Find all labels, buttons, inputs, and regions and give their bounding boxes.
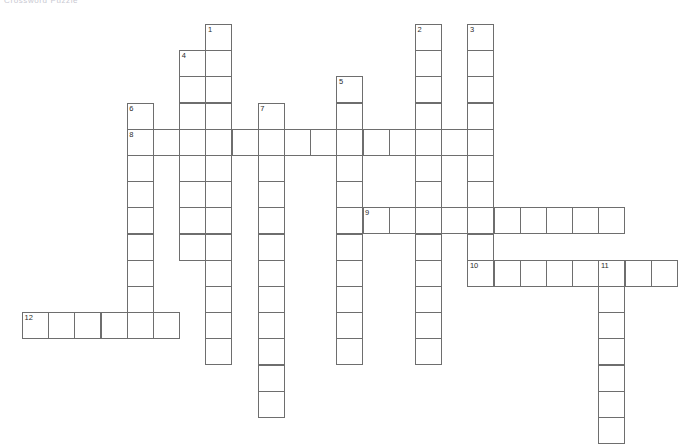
crossword-cell[interactable] [467, 207, 494, 234]
crossword-cell[interactable] [48, 312, 75, 339]
crossword-cell[interactable] [336, 103, 363, 130]
crossword-cell[interactable] [598, 365, 625, 392]
crossword-cell[interactable] [127, 260, 154, 287]
crossword-cell[interactable] [520, 260, 547, 287]
crossword-cell[interactable]: 8 [127, 129, 154, 156]
crossword-cell[interactable] [441, 207, 468, 234]
crossword-cell[interactable] [179, 207, 206, 234]
crossword-cell[interactable] [336, 260, 363, 287]
crossword-cell[interactable] [258, 312, 285, 339]
crossword-cell[interactable] [153, 129, 180, 156]
crossword-cell[interactable] [205, 338, 232, 365]
crossword-cell[interactable] [127, 207, 154, 234]
crossword-cell[interactable]: 2 [415, 24, 442, 51]
crossword-cell[interactable] [389, 207, 416, 234]
crossword-cell[interactable] [467, 76, 494, 103]
crossword-cell[interactable] [415, 207, 442, 234]
crossword-cell[interactable] [232, 129, 259, 156]
crossword-cell[interactable] [467, 129, 494, 156]
crossword-cell[interactable] [467, 234, 494, 261]
crossword-cell[interactable] [336, 286, 363, 313]
crossword-cell[interactable] [494, 260, 521, 287]
crossword-cell[interactable] [127, 234, 154, 261]
crossword-cell[interactable] [205, 103, 232, 130]
crossword-cell[interactable] [127, 286, 154, 313]
crossword-cell[interactable] [415, 155, 442, 182]
crossword-cell[interactable] [415, 234, 442, 261]
crossword-cell[interactable]: 3 [467, 24, 494, 51]
crossword-cell[interactable] [336, 234, 363, 261]
crossword-cell[interactable] [598, 312, 625, 339]
crossword-cell[interactable]: 12 [22, 312, 49, 339]
crossword-cell[interactable] [258, 155, 285, 182]
crossword-cell[interactable] [336, 181, 363, 208]
crossword-cell[interactable] [258, 207, 285, 234]
crossword-cell[interactable] [258, 286, 285, 313]
crossword-cell[interactable] [598, 338, 625, 365]
crossword-cell[interactable] [389, 129, 416, 156]
crossword-cell[interactable] [205, 76, 232, 103]
crossword-cell[interactable] [467, 103, 494, 130]
crossword-cell[interactable] [258, 181, 285, 208]
crossword-cell[interactable] [336, 129, 363, 156]
crossword-cell[interactable] [572, 207, 599, 234]
crossword-cell[interactable] [598, 286, 625, 313]
crossword-cell[interactable] [546, 207, 573, 234]
crossword-cell[interactable] [179, 76, 206, 103]
crossword-cell[interactable] [205, 260, 232, 287]
crossword-cell[interactable] [205, 234, 232, 261]
crossword-cell[interactable] [572, 260, 599, 287]
crossword-cell[interactable] [363, 129, 390, 156]
crossword-cell[interactable] [415, 338, 442, 365]
crossword-cell[interactable] [205, 50, 232, 77]
crossword-cell[interactable] [127, 155, 154, 182]
crossword-cell[interactable] [441, 129, 468, 156]
crossword-cell[interactable] [415, 260, 442, 287]
crossword-cell[interactable] [467, 155, 494, 182]
crossword-cell[interactable] [415, 103, 442, 130]
crossword-cell[interactable]: 7 [258, 103, 285, 130]
crossword-cell[interactable] [336, 155, 363, 182]
crossword-cell[interactable] [127, 181, 154, 208]
crossword-cell[interactable] [284, 129, 311, 156]
crossword-cell[interactable] [258, 129, 285, 156]
crossword-cell[interactable] [205, 312, 232, 339]
crossword-cell[interactable] [179, 129, 206, 156]
crossword-cell[interactable] [520, 207, 547, 234]
crossword-cell[interactable] [258, 391, 285, 418]
crossword-cell[interactable] [336, 338, 363, 365]
crossword-cell[interactable] [415, 129, 442, 156]
crossword-cell[interactable]: 1 [205, 24, 232, 51]
crossword-cell[interactable] [651, 260, 678, 287]
crossword-cell[interactable] [258, 338, 285, 365]
crossword-cell[interactable] [415, 76, 442, 103]
crossword-cell[interactable] [258, 260, 285, 287]
crossword-cell[interactable] [336, 312, 363, 339]
crossword-cell[interactable] [74, 312, 101, 339]
crossword-cell[interactable] [467, 50, 494, 77]
crossword-cell[interactable] [179, 181, 206, 208]
crossword-cell[interactable]: 10 [467, 260, 494, 287]
crossword-cell[interactable] [258, 365, 285, 392]
crossword-cell[interactable] [310, 129, 337, 156]
crossword-cell[interactable] [205, 286, 232, 313]
crossword-cell[interactable] [598, 417, 625, 444]
crossword-cell[interactable]: 9 [363, 207, 390, 234]
crossword-cell[interactable] [415, 50, 442, 77]
crossword-cell[interactable] [205, 207, 232, 234]
crossword-cell[interactable] [415, 312, 442, 339]
crossword-cell[interactable] [101, 312, 128, 339]
crossword-cell[interactable] [179, 155, 206, 182]
crossword-cell[interactable] [336, 207, 363, 234]
crossword-cell[interactable]: 5 [336, 76, 363, 103]
crossword-cell[interactable] [258, 234, 285, 261]
crossword-cell[interactable] [494, 207, 521, 234]
crossword-cell[interactable] [127, 312, 154, 339]
crossword-cell[interactable] [546, 260, 573, 287]
crossword-cell[interactable] [205, 181, 232, 208]
crossword-cell[interactable] [205, 155, 232, 182]
crossword-cell[interactable]: 11 [598, 260, 625, 287]
crossword-cell[interactable] [415, 181, 442, 208]
crossword-cell[interactable] [598, 207, 625, 234]
